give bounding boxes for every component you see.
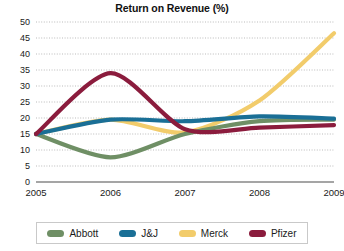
y-tick-label: 50	[20, 17, 30, 27]
y-axis-tick-labels: 05101520253035404550	[20, 17, 30, 187]
gridlines-group	[36, 22, 334, 182]
legend-label: Merck	[201, 228, 228, 239]
chart-title: Return on Revenue (%)	[0, 2, 344, 14]
legend-item-j-j[interactable]: J&J	[117, 228, 160, 239]
legend-swatch-icon	[47, 230, 64, 237]
y-tick-label: 15	[20, 129, 30, 139]
y-tick-label: 25	[20, 97, 30, 107]
x-tick-label: 2007	[174, 187, 195, 198]
x-tick-label: 2008	[249, 187, 270, 198]
legend-item-abbott[interactable]: Abbott	[45, 228, 100, 239]
y-tick-label: 10	[20, 145, 30, 155]
x-tick-label: 2005	[25, 187, 46, 198]
x-axis-tick-labels: 20052006200720082009	[25, 187, 344, 198]
x-tick-label: 2009	[323, 187, 344, 198]
y-tick-label: 30	[20, 81, 30, 91]
y-tick-label: 35	[20, 65, 30, 75]
line-chart-svg: 05101520253035404550 2005200620072008200…	[0, 14, 344, 214]
chart-legend: AbbottJ&JMerckPfizer	[36, 222, 308, 244]
chart-card: Return on Revenue (%) 051015202530354045…	[0, 0, 344, 251]
x-tick-label: 2006	[100, 187, 121, 198]
y-tick-label: 45	[20, 33, 30, 43]
legend-label: Abbott	[69, 228, 98, 239]
series-lines-group	[36, 33, 334, 157]
y-tick-label: 5	[25, 161, 30, 171]
y-tick-label: 0	[25, 177, 30, 187]
legend-label: Pfizer	[271, 228, 297, 239]
y-tick-label: 20	[20, 113, 30, 123]
legend-item-merck[interactable]: Merck	[177, 228, 230, 239]
legend-item-pfizer[interactable]: Pfizer	[247, 228, 299, 239]
legend-swatch-icon	[249, 230, 266, 237]
legend-swatch-icon	[179, 230, 196, 237]
plot-area: 05101520253035404550 2005200620072008200…	[0, 14, 344, 214]
legend-label: J&J	[141, 228, 158, 239]
legend-swatch-icon	[119, 230, 136, 237]
y-tick-label: 40	[20, 49, 30, 59]
